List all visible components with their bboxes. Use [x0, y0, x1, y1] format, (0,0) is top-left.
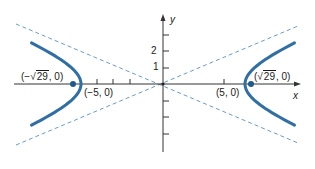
x-axis-arrow-icon	[294, 82, 301, 87]
sqrt-symbol: √29	[30, 72, 49, 82]
hyperbola-figure: y x 2 1 (−√29, 0) (√29, 0) (−5, 0) (5, 0…	[0, 0, 315, 169]
right-vertex-label: (5, 0)	[216, 88, 239, 98]
y-tick-label-2: 2	[151, 46, 157, 56]
sqrt-symbol: √29	[257, 72, 276, 82]
asymptote-positive-slope	[16, 26, 298, 145]
left-focus-label: (−√29, 0)	[21, 72, 63, 82]
hyperbola-plot	[0, 0, 315, 169]
origin-point	[161, 82, 164, 85]
x-axis-label: x	[293, 91, 298, 101]
x-ticks	[97, 79, 224, 84]
y-axis-arrow-icon	[161, 14, 166, 21]
left-focus-point	[70, 81, 76, 87]
left-vertex-label: (−5, 0)	[84, 88, 113, 98]
y-axis-label: y	[170, 15, 175, 25]
y-tick-label-1: 1	[153, 62, 159, 72]
right-focus-label: (√29, 0)	[254, 72, 290, 82]
